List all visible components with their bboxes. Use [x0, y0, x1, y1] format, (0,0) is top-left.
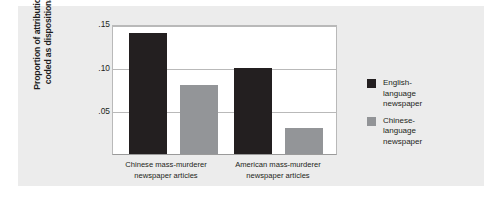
legend-label-chinese-language-line2: language	[383, 126, 422, 137]
legend-label-english-language-line3: newspaper	[383, 99, 422, 110]
y-tick-label-010: .10	[84, 64, 110, 73]
bar-chinese-chinese-language	[180, 85, 218, 154]
y-axis-title: Proportion of attributions coded as disp…	[26, 0, 60, 109]
legend-label-english-language: English- language newspaper	[383, 78, 422, 110]
gridline-015	[113, 26, 336, 27]
plot-area	[112, 25, 337, 155]
y-axis-title-line1: Proportion of attributions	[32, 0, 43, 90]
x-category-label-american: American mass-murderer newspaper article…	[222, 160, 334, 181]
bar-chinese-english-language	[129, 33, 167, 154]
y-axis-tick-labels: .15 .10 .05	[82, 25, 110, 155]
legend-swatch-icon-english-language	[367, 79, 376, 88]
legend-label-chinese-language-line3: newspaper	[383, 137, 422, 148]
legend-label-english-language-line1: English-	[383, 78, 422, 89]
legend-item-chinese-language: Chinese- language newspaper	[367, 116, 477, 148]
x-category-label-american-line1: American mass-murderer	[222, 160, 334, 171]
chart-figure: Proportion of attributions coded as disp…	[0, 0, 497, 207]
legend-item-english-language: English- language newspaper	[367, 78, 477, 110]
bar-american-chinese-language	[285, 128, 323, 154]
y-tick-label-005: .05	[84, 107, 110, 116]
x-category-label-chinese-line1: Chinese mass-murderer	[112, 160, 220, 171]
legend-label-chinese-language: Chinese- language newspaper	[383, 116, 422, 148]
chart-legend: English- language newspaper Chinese- lan…	[367, 78, 477, 154]
y-axis-title-line2: coded as dispositional	[43, 0, 54, 84]
x-category-label-chinese: Chinese mass-murderer newspaper articles	[112, 160, 220, 181]
y-tick-label-015: .15	[84, 20, 110, 29]
x-category-label-chinese-line2: newspaper articles	[112, 171, 220, 182]
legend-swatch-icon-chinese-language	[367, 117, 376, 126]
legend-label-english-language-line2: language	[383, 89, 422, 100]
bar-american-english-language	[234, 68, 272, 154]
legend-label-chinese-language-line1: Chinese-	[383, 116, 422, 127]
x-category-label-american-line2: newspaper articles	[222, 171, 334, 182]
